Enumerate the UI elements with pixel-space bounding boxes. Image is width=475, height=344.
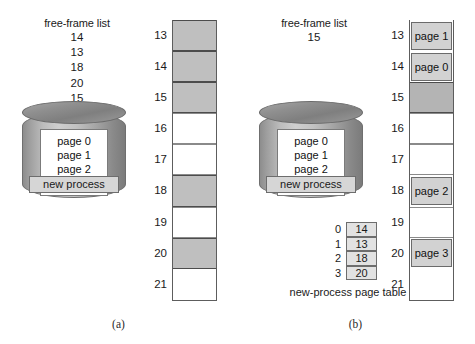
memory-frame-cell: [410, 113, 453, 144]
memory-frame-cell: [173, 20, 216, 51]
memory-frame-cell: [173, 144, 216, 175]
frame-number: 17: [382, 144, 404, 175]
disk-cylinder-top-icon: [259, 101, 363, 124]
page-table-index: 0: [313, 222, 346, 237]
memory-table-bottom-rule: [409, 300, 454, 301]
page-table-frame: 14: [346, 222, 377, 237]
page-table-index: 3: [313, 266, 346, 281]
panel-b: free-frame list 15 page 0 page 1 page 2 …: [237, 0, 474, 344]
page-table-index: 2: [313, 251, 346, 266]
frame-number: 21: [382, 269, 404, 300]
memory-frame-cell: [410, 144, 453, 175]
frame-number: 15: [145, 82, 167, 113]
free-frame-entry: 15: [251, 30, 377, 45]
frame-number: 18: [382, 175, 404, 206]
disk-label-a: new process: [29, 176, 119, 193]
memory-frame-cell: page 1: [410, 20, 453, 51]
memory-frames-column-a: [172, 20, 217, 300]
free-frame-list-b: free-frame list 15: [251, 16, 377, 45]
disk-label-b: new process: [266, 176, 356, 193]
frame-number: 19: [145, 207, 167, 238]
frame-number: 16: [145, 113, 167, 144]
memory-frame-cell: page 0: [410, 51, 453, 82]
free-frame-list-title-b: free-frame list: [251, 16, 377, 30]
memory-frame-cell: [410, 269, 453, 300]
frame-number: 14: [145, 51, 167, 82]
memory-frame-numbers-a: 13 14 15 16 17 18 19 20 21: [145, 20, 167, 300]
figure-page-allocation: { "figure": { "caption_a": "(a)", "capti…: [0, 0, 475, 344]
free-frame-list-title-a: free-frame list: [14, 16, 140, 30]
memory-frame-cell: [173, 238, 216, 269]
memory-frame-content: page 0: [411, 53, 452, 81]
frame-number: 20: [145, 238, 167, 269]
memory-frame-cell: [173, 175, 216, 206]
new-process-disk-a: page 0 page 1 page 2 page 3 new process: [22, 101, 126, 205]
page-table-index: 1: [313, 237, 346, 252]
frame-number: 17: [145, 144, 167, 175]
figure-caption-b: (b): [237, 318, 474, 330]
memory-frame-numbers-b: 13 14 15 16 17 18 19 20 21: [382, 20, 404, 300]
page-table-frame: 20: [346, 266, 377, 281]
panel-a: free-frame list 14 13 18 20 15 page 0 pa…: [0, 0, 237, 344]
memory-frame-cell: [173, 82, 216, 113]
memory-frame-cell: page 2: [410, 175, 453, 206]
free-frame-list-a: free-frame list 14 13 18 20 15: [14, 16, 140, 106]
disk-page-item: page 1: [41, 148, 107, 162]
page-table-frame: 18: [346, 251, 377, 266]
frame-number: 21: [145, 269, 167, 300]
memory-frame-cell: [410, 82, 453, 113]
memory-frame-cell: page 3: [410, 238, 453, 269]
memory-frame-cell: [173, 269, 216, 300]
new-process-disk-b: page 0 page 1 page 2 page 3 new process: [259, 101, 363, 205]
memory-frame-cell: [173, 207, 216, 238]
frame-number: 13: [382, 20, 404, 51]
frame-number: 13: [145, 20, 167, 51]
free-frame-entry: 14: [14, 30, 140, 45]
free-frame-entry: 13: [14, 45, 140, 60]
memory-frame-content: page 1: [411, 22, 452, 50]
memory-frame-cell: [173, 113, 216, 144]
disk-page-item: page 2: [278, 162, 344, 176]
page-table-frame: 13: [346, 237, 377, 252]
figure-caption-a: (a): [0, 318, 237, 330]
memory-frame-cell: [410, 207, 453, 238]
disk-page-item: page 1: [278, 148, 344, 162]
frame-number: 20: [382, 238, 404, 269]
memory-frame-content: page 2: [411, 177, 452, 205]
disk-page-item: page 0: [278, 134, 344, 148]
frame-number: 19: [382, 207, 404, 238]
memory-frame-cell: [173, 51, 216, 82]
frame-number: 16: [382, 113, 404, 144]
frame-number: 18: [145, 175, 167, 206]
memory-frames-column-b: page 1 page 0 page 2 page 3: [409, 20, 454, 300]
free-frame-entry: 20: [14, 76, 140, 91]
memory-frame-content: page 3: [411, 239, 452, 267]
disk-cylinder-top-icon: [22, 101, 126, 124]
frame-number: 14: [382, 51, 404, 82]
disk-page-item: page 2: [41, 162, 107, 176]
free-frame-entry: 18: [14, 60, 140, 75]
disk-page-item: page 0: [41, 134, 107, 148]
memory-table-bottom-rule: [172, 300, 217, 301]
frame-number: 15: [382, 82, 404, 113]
